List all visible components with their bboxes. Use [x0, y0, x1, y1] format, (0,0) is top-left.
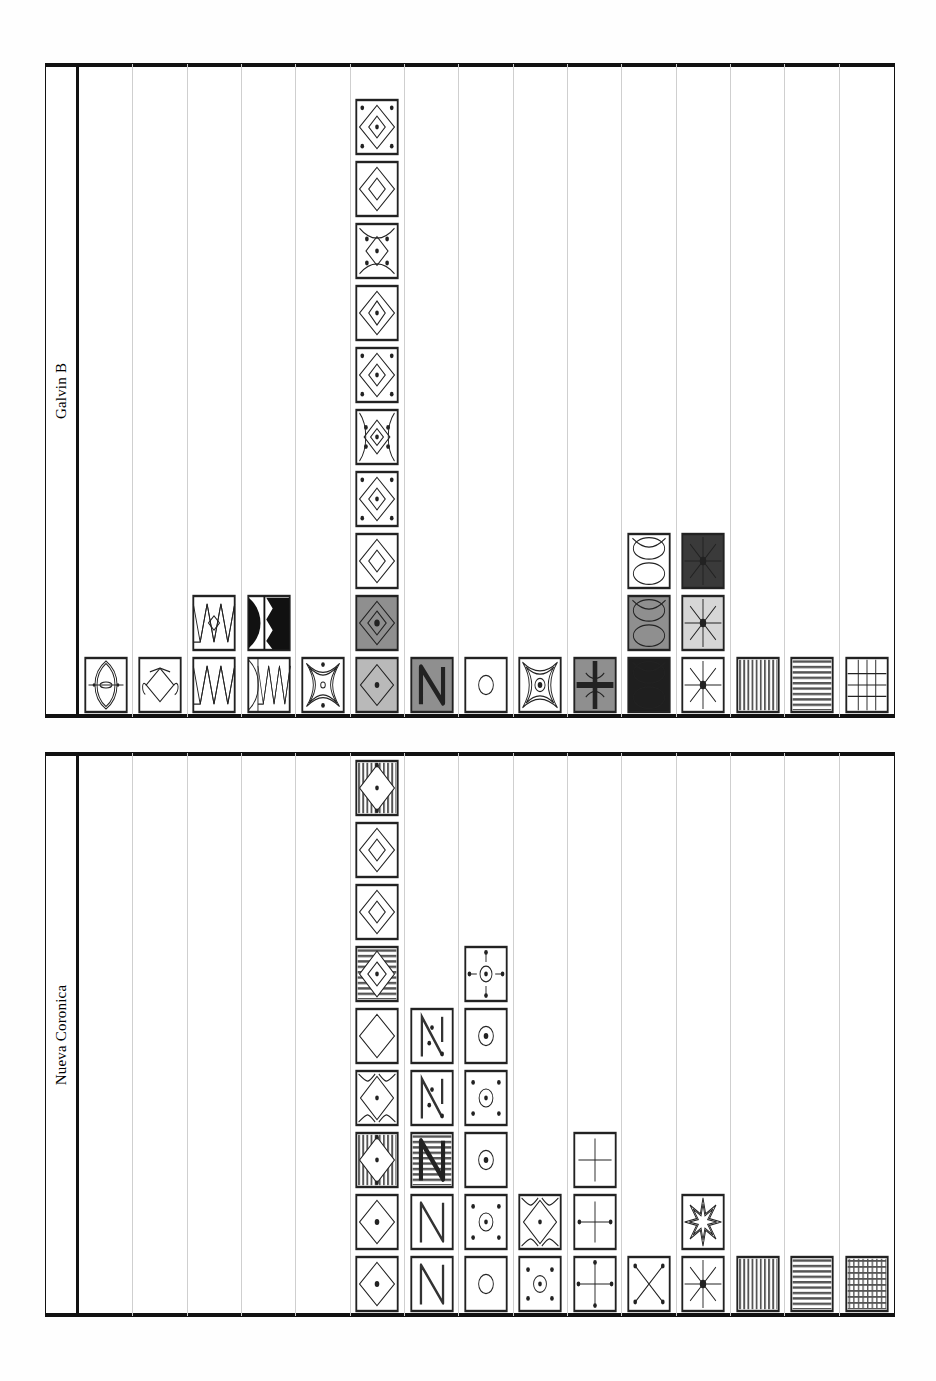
chart-bar-nested-diamond	[351, 64, 405, 717]
chart-bar-concave-square-ring	[514, 64, 568, 717]
chart-bar-cross-quatrefoil	[568, 753, 622, 1316]
motif-cell-diamond-dots	[354, 345, 400, 405]
motif-cell-n-glyph	[409, 655, 455, 715]
chart-bar-vertical-stripes	[731, 753, 785, 1316]
motif-cell-circle-four-dots	[463, 1192, 509, 1252]
motif-cell-diamond-nested	[354, 593, 400, 653]
motif-cell-diamond-plain-open	[354, 1006, 400, 1066]
motif-cell-eight-point-star	[680, 531, 726, 591]
chart-bar-eight-point-star	[677, 753, 731, 1316]
motif-cell-diamond-corner-arcs	[517, 1192, 563, 1252]
motif-cell-diamond-dots	[354, 97, 400, 157]
chart-bar-lozenge-chain	[133, 753, 187, 1316]
chart-bar-zigzag-half-disc	[242, 64, 296, 717]
chart-bar-N-glyph	[405, 64, 459, 717]
motif-cell-double-lens	[626, 593, 672, 653]
motif-cell-circle-cross-dot	[463, 944, 509, 1004]
motif-cell-diamond-vstripe	[354, 758, 400, 818]
motif-cell-horizontal-stripes	[789, 1254, 835, 1314]
motif-cell-diamond-vstripe	[354, 1130, 400, 1190]
motif-cell-lozenge-chain	[137, 655, 183, 715]
panel-nueva-coronica: Nueva Coronica	[45, 752, 895, 1317]
chart-bar-concentric-lens	[79, 753, 133, 1316]
motif-cell-zigzag-band	[191, 655, 237, 715]
motif-cell-n-glyph-hstripe	[409, 1130, 455, 1190]
motif-cell-diamond-nested-open	[354, 531, 400, 591]
chart-bar-lattice-grid	[840, 753, 894, 1316]
motif-cell-concave-square-dot	[300, 655, 346, 715]
chart-bar-circle	[459, 64, 513, 717]
motif-cell-double-lens	[626, 655, 672, 715]
motif-cell-concave-square-ring	[517, 655, 563, 715]
panel-title: Galvin B	[53, 362, 70, 418]
motif-cell-diamond-dots	[354, 469, 400, 529]
motif-cell-circle-dot	[463, 1006, 509, 1066]
motif-cell-diamond-plain	[354, 655, 400, 715]
motif-cell-n-glyph-open	[409, 1192, 455, 1252]
motif-cell-diamond-lens	[354, 283, 400, 343]
motif-cell-diamond-corner-arcs	[354, 1068, 400, 1128]
panel-title: Nueva Coronica	[53, 984, 70, 1085]
motif-cell-lattice-grid-coarse	[844, 655, 890, 715]
motif-cell-diamond-dot	[354, 1192, 400, 1252]
motif-cell-diamond-lens-dots	[354, 407, 400, 467]
motif-cell-diamond-nested-open	[354, 820, 400, 880]
motif-cell-n-glyph-open	[409, 1254, 455, 1314]
motif-cell-lattice-grid-fine	[844, 1254, 890, 1314]
motif-cell-vertical-stripes	[735, 655, 781, 715]
motif-cell-n-glyph-dots	[409, 1068, 455, 1128]
motif-cell-zigzag-half-disc	[246, 655, 292, 715]
motif-cell-n-glyph-dots	[409, 1006, 455, 1066]
motif-cell-vertical-stripes	[735, 1254, 781, 1314]
motif-cell-horizontal-stripes	[789, 655, 835, 715]
motif-cell-cross-dot-ends	[572, 1192, 618, 1252]
chart-bar-concave-square-dot	[296, 753, 350, 1316]
motif-cell-circle	[463, 655, 509, 715]
panel-galvin-b: Galvin B	[45, 63, 895, 718]
chart-bar-nested-diamond	[351, 753, 405, 1316]
chart-plot-area-galvin-b	[79, 64, 894, 717]
chart-bar-vertical-stripes	[731, 64, 785, 717]
chart-plot-area-nueva-coronica	[79, 753, 894, 1316]
motif-cell-zigzag-lozenge	[191, 593, 237, 653]
motif-cell-circle	[463, 1254, 509, 1314]
chart-bar-zigzag-band	[188, 64, 242, 717]
motif-cell-diamond-nested-open	[354, 159, 400, 219]
chart-bar-cross-quatrefoil	[568, 64, 622, 717]
chart-bar-concave-square-dot	[296, 64, 350, 717]
chart-bar-N-glyph	[405, 753, 459, 1316]
motif-cell-diamond-dot	[354, 1254, 400, 1314]
chart-bar-circle	[459, 753, 513, 1316]
motif-cell-eight-point-star-outline	[680, 1192, 726, 1252]
chart-bar-zigzag-half-disc	[242, 753, 296, 1316]
motif-cell-cross-quad-dots	[572, 1130, 618, 1190]
motif-cell-concentric-lens	[83, 655, 129, 715]
chart-bar-concave-square-ring	[514, 753, 568, 1316]
panel-title-column: Galvin B	[46, 64, 79, 717]
chart-bar-concentric-lens	[79, 64, 133, 717]
chart-bar-lozenge-chain	[133, 64, 187, 717]
motif-cell-circle-four-dots	[463, 1068, 509, 1128]
chart-bar-lattice-grid	[840, 64, 894, 717]
chart-bar-double-lens	[622, 753, 676, 1316]
panel-title-column: Nueva Coronica	[46, 753, 79, 1316]
motif-cell-concave-diamond-dots	[354, 221, 400, 281]
motif-cell-x-cross	[626, 1254, 672, 1314]
motif-cell-double-lens	[626, 531, 672, 591]
motif-cell-eight-point-star	[680, 593, 726, 653]
motif-cell-eight-point-star	[680, 1254, 726, 1314]
motif-cell-corner-arcs-dot	[517, 1254, 563, 1314]
motif-cell-diamond-nested-open	[354, 882, 400, 942]
chart-bar-zigzag-band	[188, 753, 242, 1316]
chart-bar-double-lens	[622, 64, 676, 717]
motif-cell-cross-quatrefoil	[572, 655, 618, 715]
motif-cell-diamond-hstripe	[354, 944, 400, 1004]
chart-bar-eight-point-star	[677, 64, 731, 717]
motif-cell-circle-dot	[463, 1130, 509, 1190]
motif-cell-eight-point-star	[680, 655, 726, 715]
motif-cell-half-disc-teeth	[246, 593, 292, 653]
chart-bar-horizontal-stripes	[785, 753, 839, 1316]
chart-bar-horizontal-stripes	[785, 64, 839, 717]
motif-cell-plain-cross	[572, 1254, 618, 1314]
